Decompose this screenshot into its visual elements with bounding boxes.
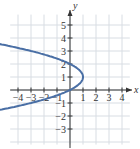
x-tick-label: 1 [81,92,86,103]
y-axis-label: y [72,0,78,11]
x-tick-label: 3 [107,92,112,103]
x-tick-label: 2 [94,92,99,103]
parabola-chart: −4−3−2−11234−3−2−112345 x y [0,0,140,149]
y-tick-label: 4 [61,33,66,44]
x-axis-label: x [133,84,139,95]
axes [10,10,132,148]
y-tick-label: −1 [55,98,66,109]
x-tick-label: 4 [120,92,125,103]
y-tick-label: −3 [55,124,66,135]
y-tick-label: 1 [61,72,66,83]
y-tick-label: 3 [61,46,66,57]
x-tick-label: −4 [13,92,24,103]
y-tick-label: −2 [55,111,66,122]
y-tick-label: 5 [61,20,66,31]
